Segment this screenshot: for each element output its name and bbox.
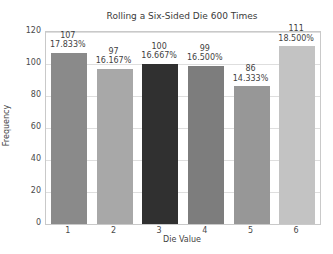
bar-value-label: 86 14.333%	[221, 64, 281, 83]
x-tick-label: 3	[144, 226, 174, 235]
x-tick-label: 6	[281, 226, 311, 235]
die-roll-bar-chart: Rolling a Six-Sided Die 600 Times Freque…	[0, 0, 333, 254]
y-tick-label: 20	[0, 186, 41, 195]
chart-title: Rolling a Six-Sided Die 600 Times	[45, 11, 319, 21]
bar-die-5	[234, 86, 270, 224]
bar-die-1	[51, 53, 87, 224]
y-tick-label: 0	[0, 218, 41, 227]
x-axis-title: Die Value	[45, 235, 319, 244]
y-tick-label: 60	[0, 122, 41, 131]
bar-value-label: 99 16.500%	[175, 44, 235, 63]
bar-die-4	[188, 66, 224, 224]
bar-value-label: 111 18.500%	[266, 24, 326, 43]
x-tick-label: 2	[99, 226, 129, 235]
x-tick-label: 5	[236, 226, 266, 235]
y-tick-label: 120	[0, 26, 41, 35]
x-tick-label: 4	[190, 226, 220, 235]
bar-die-6	[279, 46, 315, 224]
bar-die-3	[142, 64, 178, 224]
y-tick-label: 80	[0, 90, 41, 99]
x-tick-label: 1	[53, 226, 83, 235]
y-tick-label: 40	[0, 154, 41, 163]
bar-die-2	[97, 69, 133, 224]
y-tick-label: 100	[0, 58, 41, 67]
